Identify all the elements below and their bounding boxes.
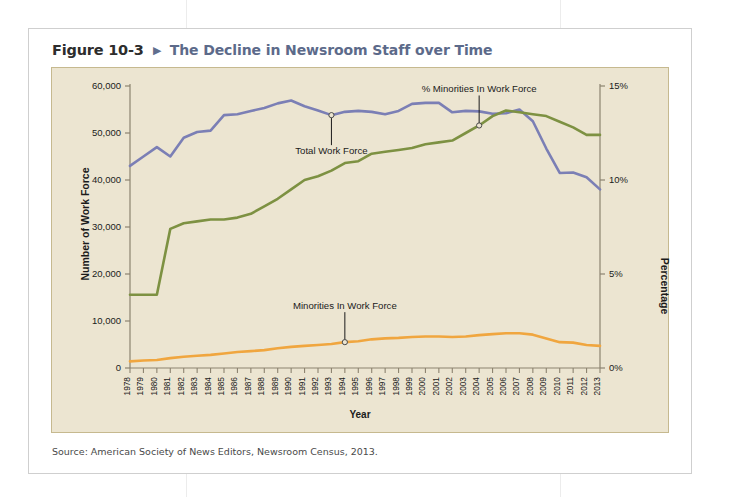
x-tick-label: 1990: [283, 377, 293, 396]
y-tick-label-right: 5%: [609, 268, 623, 279]
y-tick-label-left: 20,000: [92, 268, 121, 279]
x-tick-label: 1998: [391, 377, 401, 396]
annotation-label: % Minorities In Work Force: [422, 83, 537, 94]
line-chart: 010,00020,00030,00040,00050,00060,0000%5…: [52, 68, 668, 432]
x-tick-label: 2008: [525, 377, 535, 396]
y-tick-label-right: 0%: [609, 362, 623, 373]
x-tick-label: 1986: [229, 377, 239, 396]
series-line-minorities-in-work-force: [130, 333, 600, 361]
x-tick-label: 2013: [592, 377, 602, 396]
x-tick-label: 1991: [297, 377, 307, 396]
x-tick-label: 1979: [135, 377, 145, 396]
x-tick-label: 1978: [122, 377, 132, 396]
x-tick-label: 2012: [579, 377, 589, 396]
y-tick-label-left: 40,000: [92, 174, 121, 185]
y-tick-label-right: 10%: [609, 174, 629, 185]
x-tick-label: 1993: [323, 377, 333, 396]
x-tick-label: 1983: [189, 377, 199, 396]
x-tick-label: 1985: [216, 377, 226, 396]
x-tick-label: 2000: [417, 377, 427, 396]
x-tick-label: 1987: [243, 377, 253, 396]
x-tick-label: 2007: [511, 377, 521, 396]
annotation-label: Minorities In Work Force: [293, 300, 397, 311]
x-tick-label: 2001: [431, 377, 441, 396]
figure-source: Source: American Society of News Editors…: [52, 446, 378, 457]
x-tick-label: 1992: [310, 377, 320, 396]
annotation-marker: [342, 340, 347, 345]
x-tick-label: 2005: [485, 377, 495, 396]
x-tick-label: 2004: [471, 377, 481, 396]
y-tick-label-right: 15%: [609, 80, 629, 91]
y-tick-label-left: 30,000: [92, 221, 121, 232]
x-tick-label: 1981: [162, 377, 172, 396]
x-tick-label: 1994: [337, 377, 347, 396]
figure-header: Figure 10-3 ▶ The Decline in Newsroom St…: [52, 42, 493, 58]
x-tick-label: 2011: [565, 377, 575, 395]
x-tick-label: 1997: [377, 377, 387, 396]
annotation-label: Total Work Force: [295, 145, 367, 156]
x-tick-label: 2002: [444, 377, 454, 396]
annotation-marker: [329, 113, 334, 118]
y-tick-label-left: 60,000: [92, 80, 121, 91]
x-tick-label: 1988: [256, 377, 266, 396]
annotation-marker: [477, 123, 482, 128]
y-tick-label-left: 50,000: [92, 127, 121, 138]
x-tick-label: 1999: [404, 377, 414, 396]
x-tick-label: 2006: [498, 377, 508, 396]
x-tick-label: 1995: [350, 377, 360, 396]
figure-title: The Decline in Newsroom Staff over Time: [170, 42, 493, 58]
figure-card: Figure 10-3 ▶ The Decline in Newsroom St…: [28, 28, 692, 474]
x-tick-label: 1989: [270, 377, 280, 396]
chart-plot-area: Number of Work Force Percentage Year 010…: [51, 67, 669, 433]
x-tick-label: 2010: [552, 377, 562, 396]
x-tick-label: 1982: [176, 377, 186, 396]
x-tick-label: 2003: [458, 377, 468, 396]
x-tick-label: 1980: [149, 377, 159, 396]
x-tick-label: 1984: [203, 377, 213, 396]
x-tick-label: 2009: [538, 377, 548, 396]
y-tick-label-left: 0: [116, 362, 121, 373]
x-tick-label: 1996: [364, 377, 374, 396]
series-line-minorities-in-work-force: [130, 110, 600, 294]
figure-number: Figure 10-3: [52, 42, 144, 58]
triangle-right-icon: ▶: [153, 45, 161, 56]
y-tick-label-left: 10,000: [92, 315, 121, 326]
